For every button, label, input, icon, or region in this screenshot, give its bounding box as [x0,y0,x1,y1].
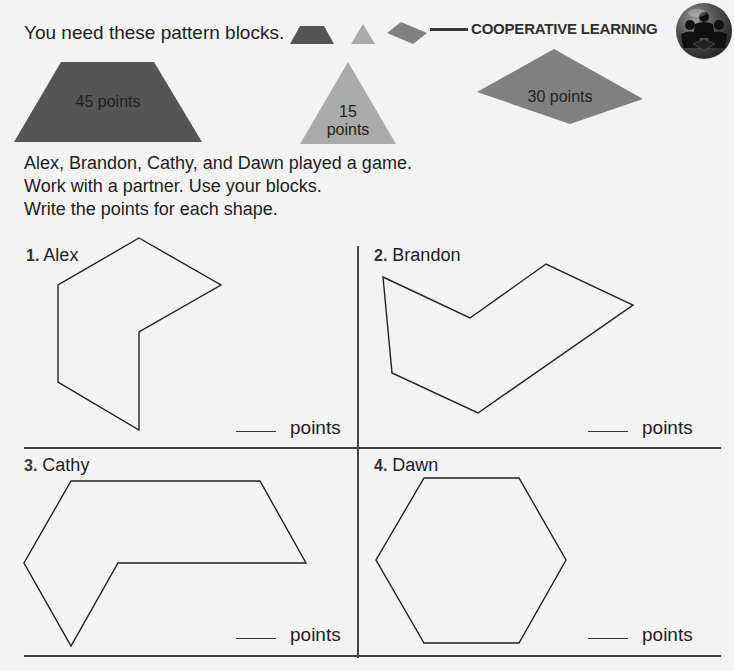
problem-4-answer[interactable]: points [588,624,693,646]
problem-4-answer-unit: points [642,624,693,645]
dawn-hexagon-shape [0,0,734,671]
problem-4-answer-blank[interactable] [588,638,628,639]
